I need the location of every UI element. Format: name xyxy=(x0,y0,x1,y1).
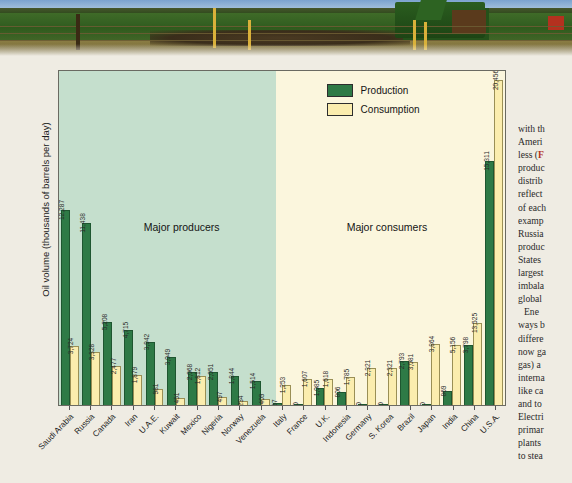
article-line: examp xyxy=(518,214,572,227)
bar-value-label: 1,844 xyxy=(228,367,235,384)
production-bar: 0 xyxy=(422,404,431,405)
x-axis-tick xyxy=(175,406,176,410)
article-line: plants xyxy=(518,436,572,449)
bar-group: 12,2873,724 xyxy=(59,71,80,405)
consumption-bar: 409 xyxy=(261,399,270,406)
article-line: with th xyxy=(518,122,572,135)
x-axis-tick xyxy=(431,406,432,410)
bar-value-label: 497 xyxy=(216,392,223,403)
article-line: imbala xyxy=(518,279,572,292)
x-axis-tick xyxy=(410,406,411,410)
consumption-bar: 1,812 xyxy=(197,376,206,405)
x-axis-tick-group: India xyxy=(442,406,463,483)
article-line: Russia xyxy=(518,227,572,240)
x-axis-category-label: U.K. xyxy=(314,412,332,430)
bar-group: 3,79813,525 xyxy=(462,71,483,405)
bar-group: 1,0851,618 xyxy=(314,71,335,405)
bar-group: 1,514409 xyxy=(250,71,271,405)
consumption-bar: 451 xyxy=(176,398,185,405)
production-bar: 97 xyxy=(273,403,282,405)
article-line: interna xyxy=(518,371,572,384)
bar-value-label: 2,477 xyxy=(110,357,117,374)
bar-value-label: 869 xyxy=(440,386,447,397)
x-axis-tick xyxy=(303,406,304,410)
x-axis-tick xyxy=(197,406,198,410)
article-line: to stea xyxy=(518,449,572,462)
bar-value-label: 13,525 xyxy=(471,313,478,333)
consumption-bar: 13,525 xyxy=(473,323,482,405)
x-axis-tick xyxy=(111,406,112,410)
y-axis-label: Oil volume (thousands of barrels per day… xyxy=(40,95,51,325)
consumption-bar: 3,328 xyxy=(91,352,100,405)
x-axis-tick xyxy=(282,406,283,410)
x-axis-tick-group: U.S.A. xyxy=(485,406,506,483)
x-axis-tick-group: Iran xyxy=(122,406,143,483)
bar-value-label: 3,081 xyxy=(407,354,414,371)
consumption-bar: 1,253 xyxy=(282,385,291,405)
photo-fence-wire-low xyxy=(0,40,572,41)
bar-value-label: 806 xyxy=(334,387,341,398)
bar-value-label: 3,049 xyxy=(164,348,171,365)
bar-value-label: 1,618 xyxy=(322,371,329,388)
consumption-bar: 1,785 xyxy=(346,377,355,405)
consumption-bar: 1,607 xyxy=(303,379,312,405)
photo-red-marker xyxy=(548,16,564,30)
chart-bars-container: 12,2873,72411,4383,3285,2082,4774,7151,8… xyxy=(59,71,505,405)
bar-value-label: 1,514 xyxy=(249,373,256,390)
photo-tractor-body xyxy=(452,10,486,34)
bar-group: 1,844234 xyxy=(229,71,250,405)
article-line: Electri xyxy=(518,410,572,423)
article-line: primar xyxy=(518,423,572,436)
production-bar: 3,942 xyxy=(146,342,155,405)
consumption-bar: 234 xyxy=(239,401,248,405)
consumption-bar: 2,321 xyxy=(388,368,397,405)
x-axis-tick xyxy=(90,406,91,410)
x-axis-tick-group: Russia xyxy=(79,406,100,483)
x-axis-tick-group: Japan xyxy=(421,406,442,483)
x-axis-tick-group: Italy xyxy=(271,406,292,483)
article-figure-ref[interactable]: F xyxy=(538,149,544,160)
photo-fence-post-2 xyxy=(213,8,216,48)
bar-value-label: 15,311 xyxy=(483,152,490,172)
bar-value-label: 1,879 xyxy=(131,367,138,384)
article-line: ways b xyxy=(518,318,572,331)
consumption-bar: 2,321 xyxy=(367,368,376,405)
x-axis-category-label: India xyxy=(440,412,459,431)
header-photograph xyxy=(0,0,572,56)
article-line: now ga xyxy=(518,345,572,358)
x-axis-tick-group: France xyxy=(293,406,314,483)
photo-fence-wire-mid xyxy=(0,33,572,34)
article-line: of each xyxy=(518,201,572,214)
article-line: gas) a xyxy=(518,358,572,371)
production-bar: 15,311 xyxy=(485,161,494,405)
article-line: differe xyxy=(518,332,572,345)
bar-group: 2,051497 xyxy=(208,71,229,405)
x-axis-tick xyxy=(218,406,219,410)
consumption-bar: 981 xyxy=(155,389,164,405)
bar-group: 3,942981 xyxy=(144,71,165,405)
bar-value-label: 1,785 xyxy=(343,368,350,385)
consumption-bar: 497 xyxy=(218,397,227,405)
article-line: like ca xyxy=(518,384,572,397)
consumption-bar: 5,156 xyxy=(452,345,461,405)
bar-value-label: 3,864 xyxy=(428,335,435,352)
x-axis-tick-group: Saudi Arabia xyxy=(58,406,79,483)
bar-value-label: 3,328 xyxy=(88,344,95,361)
bar-group: 8695,156 xyxy=(441,71,462,405)
oil-production-consumption-chart: Oil volume (thousands of barrels per day… xyxy=(14,68,506,478)
production-bar: 806 xyxy=(337,392,346,405)
bar-value-label: 5,156 xyxy=(449,336,456,353)
bar-group: 02,321 xyxy=(356,71,377,405)
chart-plot-area: Major producers Major consumers Producti… xyxy=(58,70,506,406)
bar-value-label: 2,068 xyxy=(186,364,193,381)
consumption-bar: 20,456 xyxy=(494,80,503,405)
bar-value-label: 981 xyxy=(152,384,159,395)
x-axis-tick xyxy=(389,406,390,410)
bar-value-label: 11,438 xyxy=(79,213,86,233)
x-axis-labels: Saudi ArabiaRussiaCanadaIranU.A.E.Kuwait… xyxy=(58,406,506,483)
bar-value-label: 2,321 xyxy=(386,360,393,377)
article-line: Ameri xyxy=(518,135,572,148)
x-axis-tick xyxy=(367,406,368,410)
bar-value-label: 12,287 xyxy=(58,200,65,220)
x-axis-tick-group: U.A.E. xyxy=(143,406,164,483)
